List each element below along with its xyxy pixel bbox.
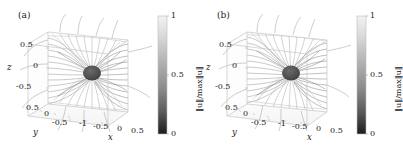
panel-b-plot: 0.5 0 -0.5 z 0.5 0 -0.5 y -1 -0.5 0 0.5 … <box>199 0 359 148</box>
y-tick-b-1: 0 <box>243 110 248 118</box>
colorbar-a-tick-05: 0.5 <box>171 71 184 79</box>
x-tick-b-1: -0.5 <box>292 123 307 131</box>
x-axis-label-a: x <box>108 133 113 142</box>
x-axis-label-b: x <box>307 133 312 142</box>
z-tick-b-1: 0 <box>232 62 237 70</box>
x-tick-a-0: -1 <box>79 120 87 128</box>
z-tick-b-0: 0.5 <box>219 41 232 49</box>
sphere-obstacle-b <box>282 66 300 81</box>
y-axis-label-b: y <box>232 128 237 137</box>
colorbar-b: 1 0.5 0 ‖u‖/max‖u‖ <box>351 0 399 148</box>
panel-a: (a) <box>0 0 199 148</box>
y-axis-label-a: y <box>33 128 38 137</box>
z-tick-a-1: 0 <box>33 62 38 70</box>
panel-a-plot: 0.5 0 -0.5 z 0.5 0 -0.5 y -1 -0.5 0 0.5 … <box>0 0 160 148</box>
colorbar-b-label: ‖u‖/max‖u‖ <box>395 66 403 112</box>
x-tick-a-3: 0.5 <box>131 127 144 135</box>
panel-b: (b) <box>199 0 398 148</box>
y-tick-a-0: 0.5 <box>26 104 39 112</box>
x-tick-b-3: 0.5 <box>330 127 343 135</box>
colorbar-a-tick-1: 1 <box>171 12 176 20</box>
z-tick-a-0: 0.5 <box>20 41 33 49</box>
colorbar-a-tick-0: 0 <box>171 130 176 138</box>
colorbar-b-tick-1: 1 <box>370 12 375 20</box>
z-tick-b-2: -0.5 <box>215 83 230 91</box>
x-tick-b-2: 0 <box>316 125 321 133</box>
colorbar-a: 1 0.5 0 ‖u‖/max‖u‖ <box>152 0 200 148</box>
y-tick-a-1: 0 <box>44 110 49 118</box>
x-tick-b-0: -1 <box>278 120 286 128</box>
x-tick-a-2: 0 <box>117 125 122 133</box>
sphere-obstacle-a <box>83 66 101 81</box>
y-tick-a-2: -0.5 <box>52 119 67 127</box>
y-tick-b-2: -0.5 <box>251 119 266 127</box>
x-tick-a-1: -0.5 <box>93 123 108 131</box>
z-axis-label-b: z <box>206 63 210 72</box>
z-tick-a-2: -0.5 <box>16 83 31 91</box>
colorbar-b-tick-05: 0.5 <box>370 71 383 79</box>
z-axis-label-a: z <box>7 63 11 72</box>
colorbar-b-tick-0: 0 <box>370 130 375 138</box>
y-tick-b-0: 0.5 <box>225 104 238 112</box>
